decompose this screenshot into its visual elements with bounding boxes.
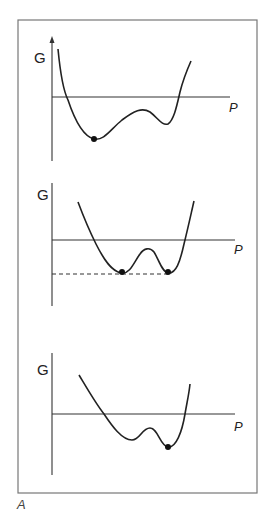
y-axis-label: G: [37, 186, 49, 203]
energy-curve: [79, 375, 190, 447]
x-axis-label: P: [234, 419, 243, 434]
panel-2: G P: [37, 183, 243, 306]
x-axis-label: P: [234, 242, 243, 257]
y-axis-label: G: [37, 361, 49, 378]
minimum-marker-1: [119, 269, 125, 275]
panel-3: G P: [37, 353, 243, 475]
free-energy-diagram: G P G P G P: [0, 0, 269, 522]
minimum-marker-2: [165, 269, 171, 275]
figure-caption-label: A: [17, 497, 26, 512]
y-axis-label: G: [34, 49, 46, 66]
panel-1: G P: [34, 36, 238, 161]
global-minimum-marker: [165, 444, 171, 450]
energy-curve: [78, 201, 194, 273]
y-axis-arrow-icon: [50, 36, 55, 43]
energy-curve: [58, 49, 191, 139]
global-minimum-marker: [91, 136, 97, 142]
x-axis-label: P: [229, 100, 238, 115]
